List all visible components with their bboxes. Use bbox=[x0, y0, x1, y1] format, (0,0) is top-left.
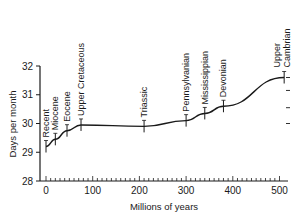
period-label: Pennsylvanian bbox=[181, 53, 191, 112]
x-tick-label: 500 bbox=[271, 185, 288, 196]
y-tick-label: 30 bbox=[22, 118, 34, 129]
period-label: Cambrian bbox=[282, 28, 292, 67]
y-tick-label: 28 bbox=[22, 176, 34, 187]
x-tick-label: 300 bbox=[178, 185, 195, 196]
x-tick-label: 400 bbox=[224, 185, 241, 196]
period-label: Triassic bbox=[139, 86, 149, 117]
period-label: Upper Cretaceous bbox=[76, 42, 86, 116]
x-tick-label: 100 bbox=[84, 185, 101, 196]
period-label: Eocene bbox=[62, 91, 72, 122]
period-label: Miocene bbox=[50, 96, 60, 130]
y-tick-label: 29 bbox=[22, 147, 34, 158]
period-label: Mississippian bbox=[200, 51, 210, 105]
period-label: Upper bbox=[272, 43, 282, 68]
y-tick-label: 31 bbox=[22, 89, 34, 100]
chart-axes: 28293031320100200300400500 bbox=[22, 61, 290, 197]
x-axis-title: Millions of years bbox=[130, 201, 198, 212]
y-axis-title: Days per month bbox=[7, 90, 18, 157]
y-tick-label: 32 bbox=[22, 61, 34, 72]
x-tick-label: 0 bbox=[43, 185, 49, 196]
x-tick-label: 200 bbox=[131, 185, 148, 196]
period-label: Devonian bbox=[218, 59, 228, 97]
line-chart: 28293031320100200300400500 RecentMiocene… bbox=[0, 0, 295, 215]
